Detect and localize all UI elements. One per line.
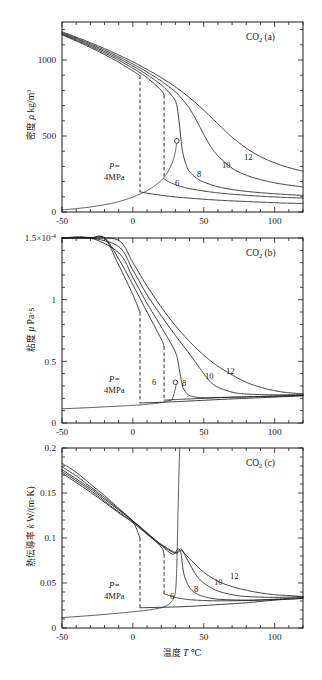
axis-ticks-c: -5005010000.050.10.150.2 xyxy=(40,443,303,642)
critical-point-marker xyxy=(173,380,178,385)
curve-label-6-c: 6 xyxy=(170,591,175,601)
xtick-label: 100 xyxy=(268,632,282,642)
pressure-annotation-line2-c: 4MPa xyxy=(104,591,125,601)
ytick-label: 0.05 xyxy=(40,578,56,588)
curve-10MPa xyxy=(62,33,303,187)
plot-frame-a xyxy=(62,22,303,212)
ytick-label: 1.5×10-4 xyxy=(25,232,57,243)
xtick-label: 50 xyxy=(199,632,209,642)
xtick-label: 0 xyxy=(131,427,136,437)
pressure-annotation-line1-b: P= xyxy=(108,374,120,384)
curve-label-8-b: 8 xyxy=(182,378,186,388)
ytick-label: 0.15 xyxy=(40,488,56,498)
data-curves-a xyxy=(62,32,303,210)
curve-label-12-a: 12 xyxy=(244,152,253,162)
xlabel-c: 温度 T ℃ xyxy=(163,647,202,658)
ytick-label: 0.2 xyxy=(45,443,57,453)
xtick-label: 50 xyxy=(199,427,209,437)
ylabel-c: 熱伝導率 k W/(m·K) xyxy=(25,486,37,567)
curve-8MPa xyxy=(62,470,303,600)
panel-a-corner-label: CO2 (a) xyxy=(246,32,275,43)
panel-density: -5005010005001000 CO2 (a) P= 4MPa 6 8 10… xyxy=(0,0,322,228)
curve-10MPa xyxy=(62,237,303,395)
pressure-annotation-line1-c: P= xyxy=(108,580,120,590)
xtick-label: 100 xyxy=(268,427,282,437)
critical-point-marker xyxy=(175,139,180,144)
panel-thermal-conductivity: -5005010000.050.10.150.2 CO2 (c) P= 4MPa… xyxy=(0,442,322,680)
curve-label-10-c: 10 xyxy=(214,577,223,587)
curve-4MPa-liquid xyxy=(62,35,140,76)
pressure-annotation-line2-a: 4MPa xyxy=(104,172,125,182)
ylabel-b: 粘度 μ Pa·s xyxy=(25,308,36,352)
curve-6MPa-vapor xyxy=(164,179,303,198)
curve-label-8-a: 8 xyxy=(197,169,201,179)
plot-frame-b xyxy=(62,238,303,423)
co2-properties-figure: -5005010005001000 CO2 (a) P= 4MPa 6 8 10… xyxy=(0,0,322,680)
ytick-label: 1 xyxy=(51,295,56,305)
curve-12MPa xyxy=(62,473,303,596)
curve-6MPa-liquid xyxy=(62,34,164,95)
curve-label-6-b: 6 xyxy=(152,377,157,387)
xtick-label: -50 xyxy=(56,632,69,642)
ytick-label: 0.5 xyxy=(45,357,57,367)
xtick-label: -50 xyxy=(56,427,69,437)
ytick-label: 500 xyxy=(42,131,56,141)
svg-text:粘度 μ Pa·s: 粘度 μ Pa·s xyxy=(25,308,36,352)
curve-label-12-c: 12 xyxy=(230,571,239,581)
ytick-label: 0 xyxy=(51,623,56,633)
axis-ticks-a: -5005010005001000 xyxy=(38,22,303,226)
curve-label-10-b: 10 xyxy=(205,371,214,381)
panel-c-corner-label: CO2 (c) xyxy=(246,458,275,469)
curve-label-8-c: 8 xyxy=(194,584,198,594)
ytick-label: 0.1 xyxy=(45,533,57,543)
curve-label-10-a: 10 xyxy=(222,160,231,170)
pressure-annotation-line1-a: P= xyxy=(108,161,120,171)
ytick-label: 0 xyxy=(51,207,56,217)
panel-viscosity: -5005010000.511.5×10-4 CO2 (b) P= 4MPa 6… xyxy=(0,224,322,448)
ytick-label: 1000 xyxy=(38,55,57,65)
curve-8MPa xyxy=(62,33,303,195)
curve-label-6-a: 6 xyxy=(175,178,180,188)
ytick-label: 0 xyxy=(51,418,56,428)
curve-label-12-b: 12 xyxy=(226,366,235,376)
data-curves-c xyxy=(62,448,303,618)
curve-8MPa xyxy=(62,237,303,398)
svg-text:熱伝導率 k W/(m·K): 熱伝導率 k W/(m·K) xyxy=(25,486,37,567)
svg-text:密度 ρ kg/m3: 密度 ρ kg/m3 xyxy=(25,90,36,140)
panel-b-corner-label: CO2 (b) xyxy=(246,248,276,259)
pressure-annotation-line2-b: 4MPa xyxy=(104,385,125,395)
xtick-label: 0 xyxy=(131,632,136,642)
ylabel-a: 密度 ρ kg/m3 xyxy=(25,90,36,140)
axis-ticks-b: -5005010000.511.5×10-4 xyxy=(25,232,303,437)
curve-4MPa-liquid xyxy=(62,236,140,312)
curve-12MPa xyxy=(62,238,303,394)
